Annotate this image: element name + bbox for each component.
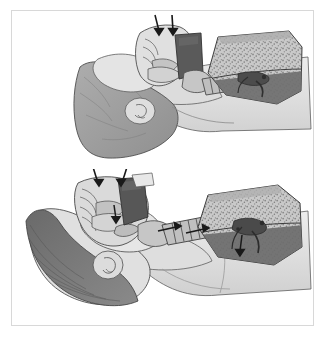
ear-bottom: [93, 251, 123, 279]
lower-panel-illustration: [12, 169, 313, 326]
maxilla-bottom: [132, 173, 154, 187]
lower-panel-description: Head shown in profile with hair, ear and…: [0, 0, 1, 1]
figure-title: Upper airway and lungs — two-panel compa…: [0, 0, 1, 1]
upper-panel-description: Sagittal cut-away of the head and neck w…: [0, 0, 1, 1]
figure-root: Upper airway and lungs — two-panel compa…: [0, 0, 326, 337]
ear-top: [125, 98, 155, 124]
figure-frame: [11, 10, 314, 326]
figure-caption: [0, 0, 1, 1]
lower-panel: [12, 169, 313, 326]
upper-panel-illustration: [12, 11, 313, 169]
